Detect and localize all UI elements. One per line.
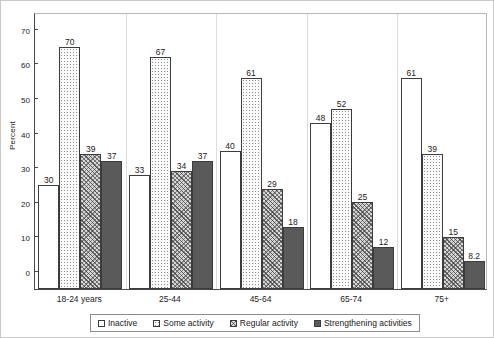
bar-value-label: 67 bbox=[156, 47, 165, 57]
bar-value-label: 37 bbox=[107, 151, 116, 161]
y-axis-tick: 10 bbox=[21, 227, 35, 245]
category-separator bbox=[216, 14, 217, 289]
bar-value-label: 18 bbox=[288, 217, 297, 227]
bar-75-strengthening-activities[interactable]: 8.2 bbox=[464, 261, 485, 289]
bar-45-64-regular-activity[interactable]: 29 bbox=[262, 189, 283, 289]
bar-value-label: 33 bbox=[135, 165, 144, 175]
bar-group-45-64: 40612918 bbox=[220, 14, 304, 289]
y-axis-tick: 20 bbox=[21, 193, 35, 211]
bar-value-label: 37 bbox=[198, 151, 207, 161]
y-axis-tick-label: 50 bbox=[21, 96, 35, 105]
bar-65-74-strengthening-activities[interactable]: 12 bbox=[373, 247, 394, 289]
bar-45-64-inactive[interactable]: 40 bbox=[220, 151, 241, 290]
bar-group-65-74: 48522512 bbox=[310, 14, 394, 289]
bar-18-24-years-some-activity[interactable]: 70 bbox=[59, 47, 80, 289]
x-axis-tick-label-45-64: 45-64 bbox=[250, 294, 272, 304]
y-axis-tick-label: 40 bbox=[21, 131, 35, 140]
legend-swatch-regular-activity bbox=[230, 320, 237, 327]
y-axis-tick: 0 bbox=[26, 262, 35, 280]
legend-item-some-activity[interactable]: Some activity bbox=[153, 318, 214, 328]
y-axis-tick: 80 bbox=[21, 0, 35, 3]
bar-25-44-some-activity[interactable]: 67 bbox=[150, 57, 171, 289]
bar-45-64-some-activity[interactable]: 61 bbox=[241, 78, 262, 289]
legend-label: Strengthening activities bbox=[324, 318, 412, 328]
bar-value-label: 8.2 bbox=[468, 251, 480, 261]
y-axis-tick-label: 70 bbox=[21, 27, 35, 36]
bar-value-label: 39 bbox=[427, 144, 436, 154]
x-axis-tick-label-75: 75+ bbox=[434, 294, 448, 304]
category-separator bbox=[307, 14, 308, 289]
legend-swatch-strengthening-activities bbox=[314, 320, 321, 327]
bar-18-24-years-regular-activity[interactable]: 39 bbox=[80, 154, 101, 289]
x-axis-tick-label-25-44: 25-44 bbox=[159, 294, 181, 304]
y-axis-tick-label: 80 bbox=[21, 0, 35, 1]
bar-value-label: 70 bbox=[65, 37, 74, 47]
y-axis-tick: 60 bbox=[21, 54, 35, 72]
bar-group-18-24-years: 30703937 bbox=[38, 14, 122, 289]
y-axis-tick-label: 30 bbox=[21, 165, 35, 174]
legend-label: Some activity bbox=[163, 318, 214, 328]
y-axis-tick: 70 bbox=[21, 20, 35, 38]
y-axis-tick: 30 bbox=[21, 158, 35, 176]
legend-item-regular-activity[interactable]: Regular activity bbox=[230, 318, 298, 328]
bar-value-label: 29 bbox=[267, 179, 276, 189]
chart-figure: Percent 01020304050607080 30703937336734… bbox=[0, 0, 494, 338]
bar-value-label: 48 bbox=[316, 113, 325, 123]
y-axis-tick-label: 10 bbox=[21, 234, 35, 243]
bar-65-74-some-activity[interactable]: 52 bbox=[331, 109, 352, 289]
bar-group-75: 6139158.2 bbox=[401, 14, 485, 289]
y-axis-tick: 40 bbox=[21, 124, 35, 142]
bar-18-24-years-inactive[interactable]: 30 bbox=[38, 185, 59, 289]
bar-75-regular-activity[interactable]: 15 bbox=[443, 237, 464, 289]
y-axis-tick: 50 bbox=[21, 89, 35, 107]
y-axis-tick-label: 20 bbox=[21, 200, 35, 209]
legend-item-strengthening-activities[interactable]: Strengthening activities bbox=[314, 318, 412, 328]
bar-value-label: 61 bbox=[246, 68, 255, 78]
bar-18-24-years-strengthening-activities[interactable]: 37 bbox=[101, 161, 122, 289]
legend-swatch-inactive bbox=[98, 320, 105, 327]
bar-65-74-regular-activity[interactable]: 25 bbox=[352, 202, 373, 289]
plot-area: 01020304050607080 3070393733673437406129… bbox=[34, 13, 487, 290]
bar-value-label: 12 bbox=[379, 237, 388, 247]
x-axis-tick-label-18-24-years: 18-24 years bbox=[57, 294, 102, 304]
legend-label: Regular activity bbox=[240, 318, 298, 328]
bar-75-inactive[interactable]: 61 bbox=[401, 78, 422, 289]
bar-25-44-strengthening-activities[interactable]: 37 bbox=[192, 161, 213, 289]
y-axis-title: Percent bbox=[8, 101, 17, 171]
bar-value-label: 15 bbox=[448, 227, 457, 237]
category-separator bbox=[397, 14, 398, 289]
legend-item-inactive[interactable]: Inactive bbox=[98, 318, 137, 328]
bar-75-some-activity[interactable]: 39 bbox=[422, 154, 443, 289]
bar-group-25-44: 33673437 bbox=[129, 14, 213, 289]
bar-25-44-regular-activity[interactable]: 34 bbox=[171, 171, 192, 289]
bar-value-label: 61 bbox=[406, 68, 415, 78]
bar-value-label: 25 bbox=[358, 192, 367, 202]
x-axis-tick-label-65-74: 65-74 bbox=[340, 294, 362, 304]
y-axis-tick-label: 60 bbox=[21, 61, 35, 70]
bar-value-label: 52 bbox=[337, 99, 346, 109]
bar-value-label: 39 bbox=[86, 144, 95, 154]
legend-swatch-some-activity bbox=[153, 320, 160, 327]
chart-legend: InactiveSome activityRegular activityStr… bbox=[90, 314, 420, 332]
y-axis-tick-label: 0 bbox=[26, 269, 35, 278]
bar-value-label: 30 bbox=[44, 175, 53, 185]
bar-45-64-strengthening-activities[interactable]: 18 bbox=[283, 227, 304, 289]
bar-value-label: 34 bbox=[177, 161, 186, 171]
bar-25-44-inactive[interactable]: 33 bbox=[129, 175, 150, 289]
legend-label: Inactive bbox=[108, 318, 137, 328]
category-separator bbox=[126, 14, 127, 289]
bar-65-74-inactive[interactable]: 48 bbox=[310, 123, 331, 289]
bar-value-label: 40 bbox=[225, 141, 234, 151]
